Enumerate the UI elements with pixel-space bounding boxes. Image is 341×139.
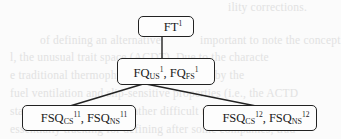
node-right-child-label: FSQCS12, FSQNS12	[222, 110, 309, 126]
node-left-child-label: FSQCS11, FSQNS11	[41, 110, 128, 126]
edge-middle-left	[70, 84, 143, 106]
node-left-child-fsq: FSQCS11, FSQNS11	[22, 105, 136, 131]
node-root-ft: FT1	[138, 16, 194, 37]
node-middle-fq: FQUS1, FQFS1	[117, 58, 215, 85]
edge-middle-right	[146, 84, 256, 106]
node-right-child-fsq: FSQCS12, FSQNS12	[203, 105, 317, 131]
node-middle-label: FQUS1, FQFS1	[134, 65, 199, 81]
node-root-label: FT1	[164, 19, 182, 35]
